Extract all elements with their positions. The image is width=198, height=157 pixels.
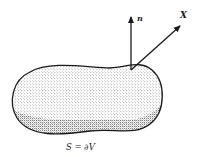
x-vector-arrow xyxy=(131,26,180,70)
surface-label: S = ∂V xyxy=(66,142,96,152)
diagram-canvas: n X S = ∂V xyxy=(0,0,198,157)
volume-region xyxy=(10,65,164,140)
vector-x-label: X xyxy=(179,10,188,20)
normal-label: n xyxy=(137,13,143,23)
